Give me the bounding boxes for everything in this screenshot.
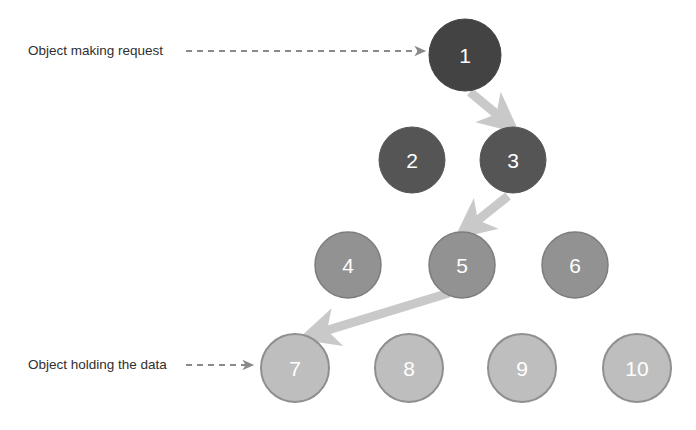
- diagram-svg: Object making request Object holding the…: [0, 0, 696, 430]
- node-9-label: 9: [516, 357, 528, 380]
- node-5-label: 5: [456, 254, 468, 277]
- diagram-canvas: Object making request Object holding the…: [0, 0, 696, 430]
- node-1[interactable]: 1: [429, 19, 501, 91]
- node-7[interactable]: 7: [261, 334, 329, 402]
- node-3[interactable]: 3: [480, 127, 546, 193]
- edge-5-to-7: [315, 293, 449, 334]
- edge-3-to-5: [468, 196, 508, 228]
- node-4[interactable]: 4: [315, 232, 381, 298]
- node-2-label: 2: [406, 149, 418, 172]
- annotation-making-request: Object making request: [28, 43, 424, 58]
- node-10[interactable]: 10: [603, 334, 671, 402]
- node-3-label: 3: [507, 149, 519, 172]
- node-9[interactable]: 9: [488, 334, 556, 402]
- node-6-label: 6: [569, 254, 581, 277]
- node-5[interactable]: 5: [429, 232, 495, 298]
- node-8-label: 8: [403, 357, 415, 380]
- edge-1-to-3: [470, 92, 506, 122]
- node-group: 1 2 3 4 5 6: [261, 19, 671, 402]
- node-2[interactable]: 2: [379, 127, 445, 193]
- node-4-label: 4: [342, 254, 354, 277]
- annotation-making-request-label: Object making request: [28, 43, 163, 58]
- node-1-label: 1: [459, 44, 471, 67]
- node-7-label: 7: [289, 357, 301, 380]
- annotation-holding-data-label: Object holding the data: [28, 357, 167, 372]
- node-8[interactable]: 8: [375, 334, 443, 402]
- node-6[interactable]: 6: [542, 232, 608, 298]
- node-10-label: 10: [625, 357, 648, 380]
- annotation-holding-data: Object holding the data: [28, 357, 252, 372]
